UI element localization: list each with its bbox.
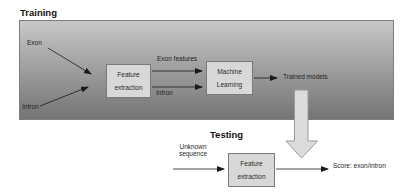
training-section-title: Training	[20, 7, 57, 18]
testing-feature-extraction-box: Feature extraction	[228, 153, 275, 187]
exon-features-arrow-label: Exon features	[157, 55, 197, 62]
exon-input-label: Exon	[27, 39, 42, 46]
unknown-sequence-line1: Unknown	[172, 143, 214, 150]
score-output-label: Score: exon/intron	[333, 162, 386, 169]
ml-box-line2: Learning	[217, 81, 242, 88]
feature-box-line2: extraction	[114, 84, 142, 91]
feature-box-line1: Feature	[117, 71, 139, 78]
testing-section-title: Testing	[210, 129, 243, 140]
machine-learning-box: Machine Learning	[206, 61, 253, 95]
ml-box-line1: Machine	[217, 68, 242, 75]
diagram-canvas: Training Exon Intron Feature extraction …	[0, 0, 412, 196]
unknown-sequence-line2: sequence	[172, 150, 214, 157]
training-feature-extraction-box: Feature extraction	[106, 64, 151, 98]
intron-input-label: Intron	[22, 103, 39, 110]
testing-feature-box-line2: extraction	[237, 173, 265, 180]
unknown-sequence-label: Unknown sequence	[172, 143, 214, 158]
testing-feature-box-line1: Feature	[240, 160, 262, 167]
trained-models-label: Trained models	[283, 73, 328, 80]
intron-arrow-label: Intron	[156, 89, 173, 96]
